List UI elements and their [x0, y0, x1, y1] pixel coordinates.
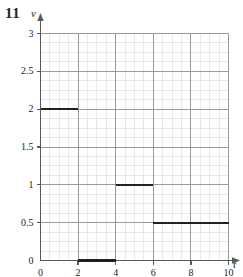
y-tick-label: 1.5 — [8, 142, 34, 152]
x-axis-arrowhead — [232, 257, 240, 263]
x-tick-label: 4 — [106, 268, 126, 277]
y-tick-label: 3 — [8, 29, 34, 39]
y-axis-arrowhead — [37, 13, 43, 21]
y-tick-label: 2 — [8, 104, 34, 114]
axis-tick-marks — [37, 34, 229, 265]
step-function-plot — [0, 0, 243, 277]
y-tick-label: 0.5 — [8, 218, 34, 228]
y-tick-label: 2.5 — [8, 66, 34, 76]
y-tick-label: 0 — [8, 256, 34, 266]
x-tick-label: 0 — [31, 268, 51, 277]
x-tick-label: 8 — [181, 268, 201, 277]
figure-container: 11 v t 00.511.522.53 0246810 — [0, 0, 243, 277]
x-tick-label: 10 — [219, 268, 239, 277]
y-tick-label: 1 — [8, 180, 34, 190]
x-tick-label: 6 — [143, 268, 163, 277]
x-tick-label: 2 — [68, 268, 88, 277]
